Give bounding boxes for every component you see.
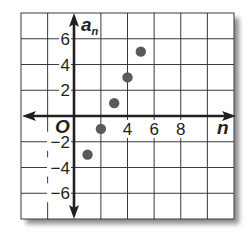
y-tick-label: −6 bbox=[51, 184, 70, 203]
y-tick-label: 4 bbox=[61, 56, 70, 75]
x-tick-label: 4 bbox=[123, 120, 132, 139]
data-point bbox=[96, 124, 106, 134]
x-axis-label: n bbox=[217, 117, 229, 138]
data-point bbox=[82, 149, 92, 159]
sequence-graph: 642−2−4−6468 an n O bbox=[0, 0, 249, 236]
data-point bbox=[122, 72, 132, 82]
data-point bbox=[136, 46, 146, 56]
x-tick-label: 8 bbox=[176, 120, 185, 139]
x-tick-label: 6 bbox=[149, 120, 158, 139]
origin-label: O bbox=[55, 116, 70, 137]
y-tick-label: 6 bbox=[61, 30, 70, 49]
y-tick-label: −4 bbox=[51, 159, 70, 178]
y-tick-label: 2 bbox=[61, 81, 70, 100]
data-point bbox=[109, 98, 119, 108]
